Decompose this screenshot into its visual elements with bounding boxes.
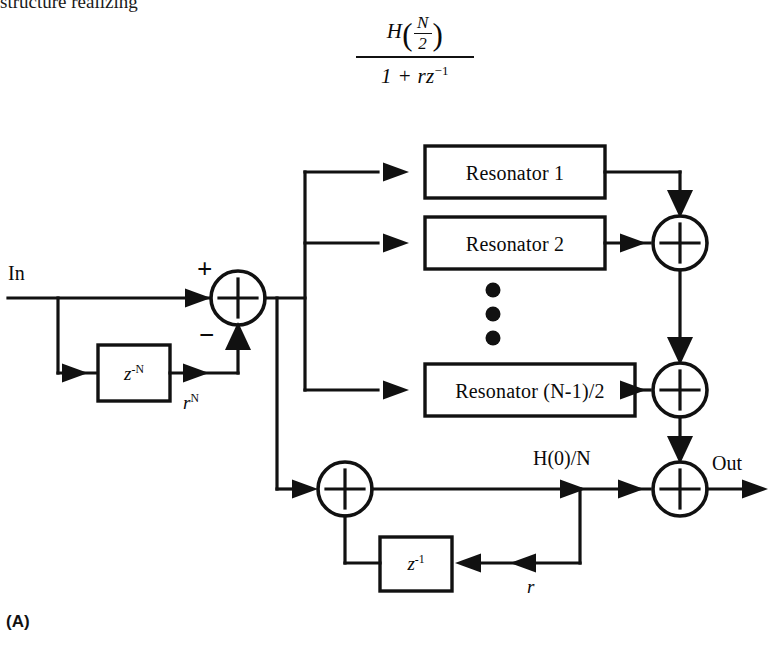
input-label: In xyxy=(8,262,25,285)
transfer-function-annotation: H(N2) 1 + rz−1 xyxy=(330,14,500,89)
adder-plus-sign: + xyxy=(197,256,212,283)
transfer-function-denominator: 1 + rz−1 xyxy=(330,58,500,89)
dc-path-label: H(0)/N xyxy=(533,447,591,470)
tf-argument-fraction: N2 xyxy=(414,14,432,53)
delay-z1-exponent: -1 xyxy=(415,553,425,566)
running-header-text: structure realizing xyxy=(0,0,138,13)
arrow-gain-h0n xyxy=(560,480,586,499)
diagram-root: structure realizing H(N2) 1 + rz−1 Reson… xyxy=(0,0,776,653)
tf-denominator-text: 1 + rz xyxy=(381,64,434,88)
arrow-adderB-into-output xyxy=(667,436,693,464)
arrow-into-resonator-1 xyxy=(383,163,409,182)
arrow-into-dc-adder xyxy=(292,480,318,499)
delay-z1-label: z-1 xyxy=(380,553,452,575)
gain-rN-exponent: N xyxy=(190,392,199,405)
gain-rN-label: rN xyxy=(183,392,199,414)
output-label: Out xyxy=(712,452,742,475)
panel-tag: (A) xyxy=(6,612,30,632)
arrow-into-resonator-3 xyxy=(383,381,409,400)
adder-minus-sign: − xyxy=(199,322,214,349)
tf-denominator-exponent: −1 xyxy=(434,63,448,78)
diagram-stage: structure realizing H(N2) 1 + rz−1 Reson… xyxy=(0,0,776,653)
arrow-gain-r xyxy=(510,554,536,573)
resonator-2-label: Resonator 2 xyxy=(425,233,605,256)
arrow-feedback-into-minus xyxy=(225,322,251,350)
ellipsis-dot-2 xyxy=(486,307,501,322)
arrow-to-delay-zN xyxy=(62,364,88,383)
paren-close: ) xyxy=(433,17,444,52)
arrow-into-resonator-2 xyxy=(383,234,409,253)
delay-zN-label: z-N xyxy=(98,363,170,385)
ellipsis-dots xyxy=(486,283,501,346)
tf-arg-denominator: 2 xyxy=(414,34,432,53)
arrow-adderA-into-adderB xyxy=(667,337,693,365)
arrow-res2-into-adderA xyxy=(620,234,646,253)
running-header: structure realizing xyxy=(0,0,260,15)
transfer-function-numerator: H(N2) xyxy=(330,14,500,56)
paren-open: ( xyxy=(402,17,413,52)
tf-arg-numerator: N xyxy=(414,14,432,34)
arrow-into-output-adder xyxy=(618,480,644,499)
resonator-1-label: Resonator 1 xyxy=(425,162,605,185)
arrow-output xyxy=(742,480,768,499)
tf-function-name: H xyxy=(387,19,402,43)
ellipsis-dot-3 xyxy=(486,331,501,346)
delay-z1-base: z xyxy=(407,553,414,574)
resonator-3-label: Resonator (N-1)/2 xyxy=(425,380,635,403)
delay-zN-exponent: -N xyxy=(131,363,143,376)
arrow-gain-rN xyxy=(183,364,209,383)
arrow-input-to-adder xyxy=(185,289,211,308)
arrow-fb-into-z1 xyxy=(455,554,481,573)
ellipsis-dot-1 xyxy=(486,283,501,298)
arrow-res1-into-adderA xyxy=(667,190,693,218)
gain-r-label: r xyxy=(527,576,534,598)
